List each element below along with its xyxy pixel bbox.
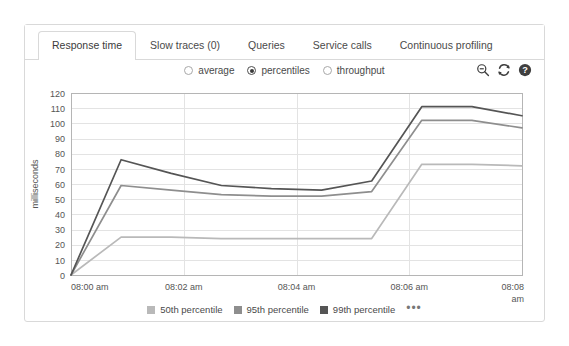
radio-dot-selected-icon <box>247 66 256 75</box>
tab-response-time[interactable]: Response time <box>38 31 136 60</box>
x-tick-label: 08:06 am <box>390 282 428 292</box>
x-tick-label: 08:08 <box>501 282 524 292</box>
x-tick-label: 08:02 am <box>165 282 203 292</box>
tab-service-calls[interactable]: Service calls <box>299 31 386 60</box>
radio-dot-icon <box>323 66 332 75</box>
y-tick-label: 70 <box>55 165 65 175</box>
legend-label-95th: 95th percentile <box>247 304 309 315</box>
response-time-panel: Response time Slow traces (0) Queries Se… <box>24 24 545 322</box>
y-axis-label: milliseconds <box>30 159 40 209</box>
help-icon[interactable]: ? <box>518 63 532 77</box>
y-axis-ticks: 0102030405060708090100110120 <box>50 89 65 281</box>
legend-label-99th: 99th percentile <box>333 304 395 315</box>
legend-overflow-button[interactable]: ••• <box>406 305 422 314</box>
legend-swatch-50th <box>147 306 155 314</box>
radio-percentiles[interactable]: percentiles <box>247 65 309 76</box>
legend-swatch-95th <box>234 306 242 314</box>
tab-slow-traces[interactable]: Slow traces (0) <box>136 31 234 60</box>
chart-legend: 50th percentile 95th percentile 99th per… <box>25 304 544 315</box>
y-tick-label: 100 <box>50 119 65 129</box>
radio-average[interactable]: average <box>184 65 234 76</box>
tab-continuous-profiling[interactable]: Continuous profiling <box>386 31 507 60</box>
y-tick-label: 50 <box>55 195 65 205</box>
y-tick-label: 110 <box>51 104 65 114</box>
legend-swatch-99th <box>320 306 328 314</box>
legend-item-95th[interactable]: 95th percentile <box>234 304 309 315</box>
response-time-chart: 0102030405060708090100110120 08:00 am08:… <box>25 85 544 321</box>
x-axis-ticks: 08:00 am08:02 am08:04 am08:06 am08:08am <box>71 282 524 304</box>
y-tick-label: 20 <box>55 240 65 250</box>
x-tick-label: 08:00 am <box>71 282 109 292</box>
x-tick-label-wrap: am <box>511 294 524 304</box>
y-tick-label: 80 <box>55 149 65 159</box>
refresh-icon[interactable] <box>497 63 511 77</box>
y-tick-label: 120 <box>50 89 65 99</box>
y-tick-label: 90 <box>55 134 65 144</box>
y-tick-label: 40 <box>55 210 65 220</box>
legend-label-50th: 50th percentile <box>160 304 222 315</box>
y-tick-label: 10 <box>55 256 65 266</box>
y-tick-label: 60 <box>55 180 65 190</box>
radio-percentiles-label: percentiles <box>261 65 309 76</box>
chart-toolbar: ? <box>476 63 532 77</box>
legend-item-99th[interactable]: 99th percentile <box>320 304 395 315</box>
x-tick-label: 08:04 am <box>278 282 316 292</box>
radio-throughput[interactable]: throughput <box>323 65 385 76</box>
radio-throughput-label: throughput <box>337 65 385 76</box>
chart-svg: 0102030405060708090100110120 08:00 am08:… <box>25 85 544 321</box>
radio-dot-icon <box>184 66 193 75</box>
svg-text:?: ? <box>522 65 528 75</box>
radio-average-label: average <box>198 65 234 76</box>
zoom-out-icon[interactable] <box>476 63 490 77</box>
y-tick-label: 30 <box>55 225 65 235</box>
legend-item-50th[interactable]: 50th percentile <box>147 304 222 315</box>
metric-radio-group: average percentiles throughput <box>25 65 544 76</box>
y-tick-label: 0 <box>60 271 65 281</box>
chart-options-row: average percentiles throughput <box>25 61 544 85</box>
tab-bar: Response time Slow traces (0) Queries Se… <box>25 25 544 60</box>
tab-queries[interactable]: Queries <box>234 31 299 60</box>
